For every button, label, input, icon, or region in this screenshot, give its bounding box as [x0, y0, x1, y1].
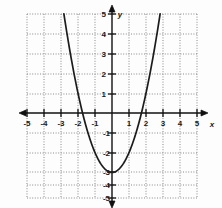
- parabola-graph-figure: -5 -4 -3 -2 -1 1 2 3 4 5 5 4 3 2 1 -1 -2…: [0, 0, 222, 208]
- y-tick-label-4: 4: [102, 30, 107, 39]
- y-tick-label-3: 3: [102, 50, 107, 59]
- coordinate-plane-svg: -5 -4 -3 -2 -1 1 2 3 4 5 5 4 3 2 1 -1 -2…: [0, 0, 222, 208]
- x-tick-label--2: -2: [74, 119, 82, 128]
- y-tick-label--1: -1: [103, 129, 111, 138]
- y-tick-label-2: 2: [102, 70, 107, 79]
- x-tick-label--3: -3: [57, 119, 65, 128]
- x-axis-label: x: [209, 120, 215, 129]
- y-axis-tick-labels: 5 4 3 2 1 -1 -2 -3 -4 -5: [102, 10, 111, 203]
- x-tick-label-2: 2: [144, 119, 149, 128]
- y-tick-label--4: -4: [103, 181, 111, 190]
- y-tick-label-5: 5: [102, 10, 107, 19]
- x-axis-right-arrow-icon: [201, 110, 208, 116]
- y-tick-label--5: -5: [103, 194, 111, 203]
- x-tick-label-4: 4: [178, 119, 183, 128]
- y-tick-label-1: 1: [102, 90, 107, 99]
- x-tick-label--4: -4: [40, 119, 48, 128]
- x-tick-label--1: -1: [91, 119, 99, 128]
- x-tick-label--5: -5: [23, 119, 31, 128]
- x-tick-label-3: 3: [161, 119, 166, 128]
- y-axis-label: y: [117, 10, 123, 19]
- x-axis-left-arrow-icon: [19, 110, 26, 116]
- y-tick-label--2: -2: [103, 149, 111, 158]
- y-axis-up-arrow-icon: [109, 5, 115, 12]
- x-tick-label-5: 5: [195, 119, 200, 128]
- x-tick-label-1: 1: [127, 119, 132, 128]
